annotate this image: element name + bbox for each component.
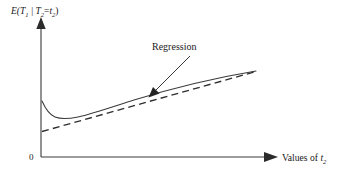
x-axis-arrowhead [264,152,278,162]
x-axis-label: Values of t2 [282,152,327,165]
conditional-expectation-curve [42,71,256,119]
svg-text:E(T1|T2=t2): E(T1|T2=t2) [10,6,59,18]
y-axis [36,17,45,157]
y-label-bar: | [31,6,33,16]
y-label-close: ) [55,6,58,17]
x-label-var-sub: 2 [323,158,327,165]
y-label-t-main-sub: 1 [25,11,28,18]
regression-annotation-label: Regression [152,41,196,52]
origin-label: 0 [29,152,34,162]
svg-text:Values of t2: Values of t2 [282,152,327,165]
regression-line [42,72,256,132]
regression-figure: E(T1|T2=t2) 0 Regression Values of t2 [0,0,343,174]
y-axis-label: E(T1|T2=t2) [10,6,59,18]
x-label-prefix: Values of [282,152,320,163]
figure-canvas: E(T1|T2=t2) 0 Regression Values of t2 [0,0,343,174]
y-axis-arrowhead [36,17,45,29]
x-axis [41,152,278,162]
